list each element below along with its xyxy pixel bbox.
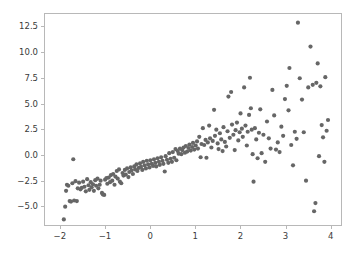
scatter-point xyxy=(240,127,244,131)
x-tick-label: 1 xyxy=(193,232,198,241)
scatter-point xyxy=(236,138,240,142)
x-tick-mark xyxy=(60,226,61,229)
scatter-point xyxy=(202,143,206,147)
x-tick-label: −2 xyxy=(54,232,67,241)
scatter-point xyxy=(66,184,70,188)
figure-canvas: −5.0−2.50.02.55.07.510.012.5 −2−101234 xyxy=(0,0,359,255)
scatter-point xyxy=(320,123,324,127)
scatter-point xyxy=(166,161,170,165)
scatter-point xyxy=(246,130,250,134)
scatter-point xyxy=(209,145,213,149)
scatter-point xyxy=(64,189,68,193)
y-tick-mark xyxy=(41,78,44,79)
y-tick-mark xyxy=(41,26,44,27)
scatter-point xyxy=(245,143,249,147)
scatter-point xyxy=(314,81,318,85)
scatter-point xyxy=(298,76,302,80)
scatter-point xyxy=(234,128,238,132)
scatter-point xyxy=(308,45,312,49)
scatter-point xyxy=(325,129,329,133)
scatter-point xyxy=(322,160,326,164)
scatter-point xyxy=(216,141,220,145)
y-tick-label: 7.5 xyxy=(0,74,38,83)
scatter-point xyxy=(154,164,158,168)
y-tick-label: 10.0 xyxy=(0,48,38,57)
y-tick-mark xyxy=(41,155,44,156)
scatter-point xyxy=(206,140,210,144)
y-tick-mark xyxy=(41,206,44,207)
scatter-point xyxy=(81,180,85,184)
scatter-point xyxy=(73,179,77,183)
scatter-point xyxy=(277,150,281,154)
scatter-point xyxy=(248,76,252,80)
scatter-point xyxy=(254,137,258,141)
scatter-point xyxy=(230,123,234,127)
x-tick-mark xyxy=(286,226,287,229)
x-tick-mark xyxy=(331,226,332,229)
scatter-point xyxy=(152,157,156,161)
scatter-point xyxy=(82,185,86,189)
scatter-point xyxy=(251,152,255,156)
scatter-point xyxy=(317,154,321,158)
scatter-point xyxy=(221,125,225,129)
scatter-point xyxy=(201,126,205,130)
scatter-point xyxy=(304,179,308,183)
x-tick-label: 4 xyxy=(328,232,333,241)
x-tick-mark xyxy=(150,226,151,229)
scatter-point xyxy=(311,83,315,87)
scatter-point xyxy=(249,106,253,110)
y-tick-mark xyxy=(41,104,44,105)
scatter-point xyxy=(153,161,157,165)
scatter-point xyxy=(243,124,247,128)
scatter-point xyxy=(302,130,306,134)
x-tick-mark xyxy=(240,226,241,229)
y-tick-label: −2.5 xyxy=(0,176,38,185)
scatter-point xyxy=(260,151,264,155)
scatter-point xyxy=(238,111,242,115)
scatter-point xyxy=(296,21,300,25)
scatter-point xyxy=(224,144,228,148)
scatter-point xyxy=(170,160,174,164)
scatter-point xyxy=(92,189,96,193)
scatter-point xyxy=(255,156,259,160)
scatter-point xyxy=(221,149,225,153)
scatter-point xyxy=(145,159,149,163)
scatter-point xyxy=(196,146,200,150)
y-tick-label: 5.0 xyxy=(0,99,38,108)
scatter-point xyxy=(158,163,162,167)
plot-axes-area xyxy=(44,13,342,226)
y-tick-mark xyxy=(41,52,44,53)
scatter-point xyxy=(276,140,280,144)
x-tick-label: 3 xyxy=(283,232,288,241)
scatter-point xyxy=(155,156,159,160)
scatter-point xyxy=(207,124,211,128)
scatter-point xyxy=(283,97,287,101)
scatter-point xyxy=(99,179,103,183)
scatter-point xyxy=(226,94,230,98)
scatter-point xyxy=(62,217,66,221)
scatter-point xyxy=(125,166,129,170)
scatter-point xyxy=(77,181,81,185)
scatter-point xyxy=(84,189,88,193)
scatter-point xyxy=(161,162,165,166)
scatter-point xyxy=(147,165,151,169)
scatter-point xyxy=(164,154,168,158)
scatter-point xyxy=(204,156,208,160)
scatter-point xyxy=(235,120,239,124)
y-tick-mark xyxy=(41,181,44,182)
scatter-point xyxy=(63,205,67,209)
scatter-point xyxy=(326,118,330,122)
scatter-point xyxy=(75,199,79,203)
scatter-point xyxy=(195,139,199,143)
scatter-point xyxy=(233,148,237,152)
scatter-point xyxy=(185,150,189,154)
scatter-point xyxy=(126,175,130,179)
scatter-point xyxy=(267,136,271,140)
scatter-point xyxy=(144,166,148,170)
scatter-point xyxy=(257,131,261,135)
scatter-point xyxy=(148,158,152,162)
x-tick-mark xyxy=(105,226,106,229)
scatter-point xyxy=(268,146,272,150)
scatter-point xyxy=(306,85,310,89)
scatter-point xyxy=(102,193,106,197)
